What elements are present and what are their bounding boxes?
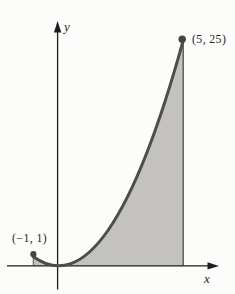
point-dot-minus1-1 <box>30 251 36 257</box>
point-label-minus1-1: (−1, 1) <box>12 231 47 245</box>
point-dot-5-25 <box>179 36 186 43</box>
x-axis-label: x <box>203 271 210 286</box>
point-label-5-25: (5, 25) <box>192 32 226 46</box>
y-axis-label: y <box>62 19 70 34</box>
function-graph-figure: y x (−1, 1) (5, 25) <box>0 0 235 294</box>
